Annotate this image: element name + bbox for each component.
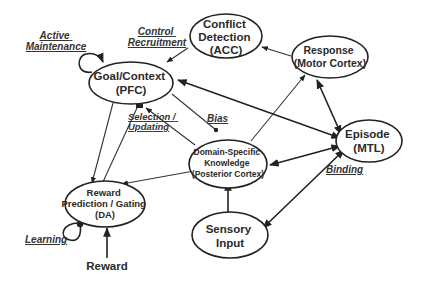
edge-goal-to-reward-pred bbox=[92, 103, 113, 183]
edge-domain-to-reward-pred bbox=[122, 171, 194, 184]
label-binding: Binding bbox=[326, 164, 363, 175]
edge-conflict-to-goal bbox=[167, 48, 188, 62]
node-episode: Episode (MTL) bbox=[336, 120, 402, 162]
label-learning: Learning bbox=[25, 234, 67, 245]
edge-episode-response bbox=[317, 80, 341, 134]
edge-goal-to-domain bbox=[172, 94, 216, 130]
svg-text:Response (Motor Cortex): Response (Motor Cortex) bbox=[294, 44, 366, 69]
label-control-recruitment: Control Recruitment bbox=[128, 26, 187, 48]
label-bias: Bias bbox=[207, 113, 229, 124]
cognitive-control-diagram: Conflict Detection (ACC) Goal/Context (P… bbox=[0, 0, 422, 282]
node-reward: Reward bbox=[86, 260, 128, 272]
label-selection-updating: Selection / Updating bbox=[128, 111, 178, 132]
edge-episode-sensory bbox=[263, 150, 344, 228]
edge-episode-domain bbox=[270, 146, 340, 165]
node-domain-knowledge: Domain-Specific Knowledge (Posterior Cor… bbox=[189, 140, 267, 188]
node-response: Response (Motor Cortex) bbox=[292, 36, 368, 78]
edge-domain-to-response bbox=[251, 75, 305, 141]
node-goal-context: Goal/Context (PFC) bbox=[89, 62, 173, 104]
svg-text:Reward: Reward bbox=[86, 260, 128, 272]
node-reward-prediction: Reward Prediction / Gating (DA) bbox=[61, 181, 148, 227]
label-active-maintenance: Active Maintenance bbox=[26, 30, 87, 52]
edge-episode-goal bbox=[178, 80, 340, 138]
edge-response-to-conflict bbox=[262, 47, 291, 56]
node-sensory-input: Sensory Input bbox=[192, 212, 268, 258]
node-conflict-detection: Conflict Detection (ACC) bbox=[190, 14, 262, 58]
